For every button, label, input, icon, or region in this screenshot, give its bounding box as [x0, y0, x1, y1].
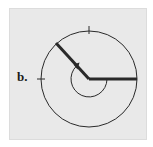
terminal-side-ray	[56, 43, 89, 79]
angle-diagram	[0, 0, 153, 147]
angle-arc	[71, 66, 107, 97]
